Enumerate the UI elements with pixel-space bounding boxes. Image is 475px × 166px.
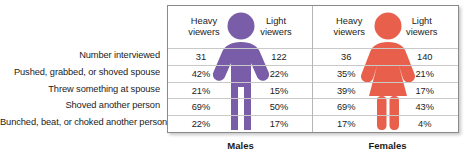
- data-table-frame: Heavy viewers 31 42% 21% 69% 22% Light v…: [167, 5, 459, 133]
- row-label: Number interviewed: [0, 47, 165, 64]
- column-header: Light viewers: [386, 6, 459, 48]
- pictogram-table-chart: Number interviewed Pushed, grabbed, or s…: [0, 0, 475, 166]
- column-females-light-viewers: Light viewers 140 21% 17% 43% 4%: [386, 6, 459, 132]
- table-grid: Heavy viewers 31 42% 21% 69% 22% Light v…: [168, 6, 458, 132]
- column-header-line1: Heavy: [336, 16, 362, 28]
- row-label-column: Number interviewed Pushed, grabbed, or s…: [0, 47, 165, 131]
- column-header-line1: Light: [266, 16, 286, 28]
- table-cell: 122: [240, 48, 312, 65]
- column-header-line1: Heavy: [191, 16, 217, 28]
- row-label: Pushed, grabbed, or shoved spouse: [0, 64, 165, 81]
- table-cell: 15%: [240, 82, 312, 99]
- gender-block-females: Heavy viewers 36 35% 39% 69% 17% Light v…: [313, 6, 458, 132]
- gender-block-males: Heavy viewers 31 42% 21% 69% 22% Light v…: [168, 6, 313, 132]
- caption-males: Males: [167, 136, 312, 158]
- gender-captions: Males Females: [167, 136, 459, 158]
- row-label: Bunched, beat, or choked another person: [0, 114, 165, 131]
- column-header: Light viewers: [240, 6, 312, 48]
- table-cell: 36: [313, 48, 386, 65]
- column-header-line2: viewers: [260, 27, 292, 39]
- table-cell: 140: [386, 48, 459, 65]
- row-label: Shoved another person: [0, 97, 165, 114]
- column-header: Heavy viewers: [168, 6, 240, 48]
- column-header-line1: Light: [412, 16, 432, 28]
- table-cell: 22%: [168, 115, 240, 132]
- table-cell: 69%: [168, 98, 240, 115]
- column-header-line2: viewers: [188, 27, 220, 39]
- table-cell: 21%: [386, 65, 459, 82]
- table-cell: 17%: [313, 115, 386, 132]
- column-header-line2: viewers: [333, 27, 365, 39]
- column-males-light-viewers: Light viewers 122 22% 15% 50% 17%: [240, 6, 312, 132]
- table-cell: 42%: [168, 65, 240, 82]
- column-header: Heavy viewers: [313, 6, 386, 48]
- row-label: Threw something at spouse: [0, 81, 165, 98]
- column-males-heavy-viewers: Heavy viewers 31 42% 21% 69% 22%: [168, 6, 240, 132]
- table-cell: 31: [168, 48, 240, 65]
- table-cell: 43%: [386, 98, 459, 115]
- table-cell: 22%: [240, 65, 312, 82]
- table-cell: 17%: [240, 115, 312, 132]
- table-cell: 35%: [313, 65, 386, 82]
- caption-females: Females: [312, 136, 459, 158]
- table-cell: 50%: [240, 98, 312, 115]
- table-cell: 39%: [313, 82, 386, 99]
- table-cell: 17%: [386, 82, 459, 99]
- column-header-line2: viewers: [406, 27, 438, 39]
- table-cell: 4%: [386, 115, 459, 132]
- table-cell: 21%: [168, 82, 240, 99]
- table-cell: 69%: [313, 98, 386, 115]
- column-females-heavy-viewers: Heavy viewers 36 35% 39% 69% 17%: [313, 6, 386, 132]
